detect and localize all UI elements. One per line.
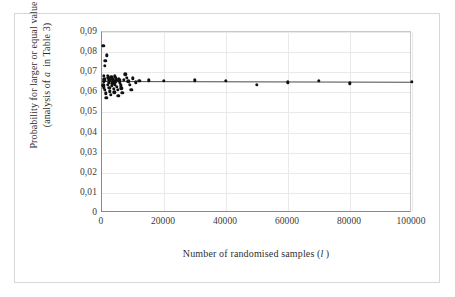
x-tick-label: 40000	[213, 216, 237, 227]
x-tick-label: 20000	[151, 216, 175, 227]
plot-area	[101, 31, 411, 212]
gridline-horizontal	[102, 52, 410, 53]
data-point	[105, 96, 108, 99]
data-point	[103, 64, 106, 67]
gridline-horizontal	[102, 72, 410, 73]
x-tick-label: 0	[99, 216, 104, 227]
data-point	[120, 91, 123, 94]
gridline-horizontal	[102, 133, 410, 134]
data-point	[104, 91, 107, 94]
data-point	[348, 82, 351, 85]
gridline-vertical	[164, 32, 165, 211]
gridline-horizontal	[102, 32, 410, 33]
data-point	[286, 81, 289, 84]
data-point	[102, 44, 105, 47]
data-point	[116, 94, 119, 97]
gridline-horizontal	[102, 92, 410, 93]
data-point	[109, 93, 112, 96]
chart-figure: Probability for larger or equal value (a…	[0, 0, 455, 297]
gridline-vertical	[412, 32, 413, 211]
y-tick-label: 0,06	[80, 86, 97, 96]
x-tick-label: 100000	[396, 216, 425, 227]
data-point	[130, 88, 133, 91]
gridline-horizontal	[102, 193, 410, 194]
y-axis-tick-labels: 00,010,020,030,040,050,060,070,080,09	[48, 31, 97, 212]
y-tick-label: 0,08	[80, 46, 97, 56]
y-axis-title-line1: Probability for larger or equal value	[27, 0, 40, 177]
gridline-horizontal	[102, 153, 410, 154]
gridline-vertical	[226, 32, 227, 211]
gridline-horizontal	[102, 112, 410, 113]
data-point	[128, 83, 131, 86]
y-tick-label: 0,05	[80, 106, 97, 116]
y-tick-label: 0,01	[80, 187, 97, 197]
gridline-vertical	[350, 32, 351, 211]
y-tick-label: 0,04	[80, 127, 97, 137]
gridline-vertical	[288, 32, 289, 211]
data-point	[105, 53, 108, 56]
data-point	[116, 88, 119, 91]
x-tick-label: 60000	[275, 216, 299, 227]
data-point	[255, 83, 258, 86]
y-tick-label: 0,07	[80, 66, 97, 76]
x-axis-tick-labels: 020000400006000080000100000	[101, 216, 411, 230]
x-axis-title: Number of randomised samples (l )	[101, 248, 411, 259]
y-tick-label: 0	[92, 207, 97, 217]
data-point	[104, 59, 107, 62]
data-point	[131, 77, 134, 80]
data-point	[120, 86, 123, 89]
y-tick-label: 0,03	[80, 147, 97, 157]
y-tick-label: 0,09	[80, 26, 97, 36]
gridline-horizontal	[102, 173, 410, 174]
x-tick-label: 80000	[337, 216, 361, 227]
y-tick-label: 0,02	[80, 167, 97, 177]
